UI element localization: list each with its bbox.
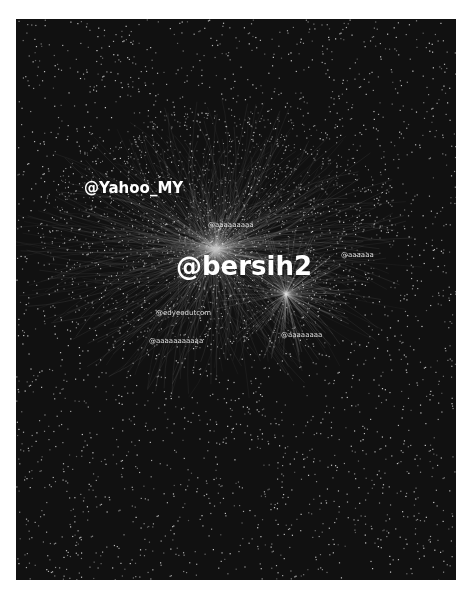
node-label-c: @aaaaaaaaaaa	[149, 337, 203, 345]
network-graph: @Yahoo_MY @bersih2 @aaaaaaaaa @edyeedutc…	[16, 19, 456, 580]
node-label-b: @edyeedutcom	[156, 309, 211, 317]
network-canvas	[16, 19, 456, 580]
node-label-yahoo: @Yahoo_MY	[84, 179, 183, 197]
node-label-d: @aaaaaaaa	[281, 331, 322, 339]
node-label-a: @aaaaaaaaa	[208, 221, 254, 229]
node-label-e: @aaaaaa	[341, 251, 374, 259]
node-label-bersih2: @bersih2	[176, 251, 312, 281]
